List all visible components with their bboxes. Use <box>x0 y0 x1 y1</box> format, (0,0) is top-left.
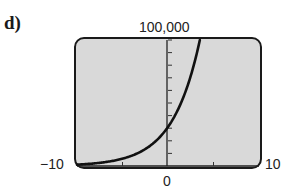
graph-window <box>0 0 297 191</box>
